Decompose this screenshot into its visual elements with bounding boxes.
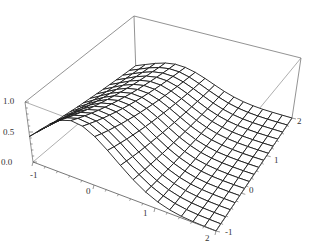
y-tick-label: 1 [274, 155, 279, 165]
z-tick-label: 1.0 [3, 96, 15, 106]
x-tick-label: 1 [143, 208, 148, 218]
y-tick-label: -1 [225, 227, 233, 237]
z-tick-label: 0.5 [3, 127, 15, 137]
x-tick-label: -1 [30, 170, 38, 180]
x-tick-label: 0 [86, 186, 91, 196]
z-tick-label: 0.0 [1, 157, 13, 167]
y-tick-label: 2 [297, 116, 302, 126]
y-tick-label: 0 [249, 185, 254, 195]
x-tick-label: 2 [205, 233, 210, 243]
surface-mesh [30, 63, 292, 231]
surface-plot: 0.0 0.5 1.0 -1 0 1 2 -1 0 1 2 [0, 0, 313, 247]
